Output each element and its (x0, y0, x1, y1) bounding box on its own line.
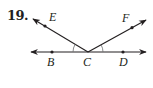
geometry-diagram: E F B C D (0, 0, 153, 88)
point-b (50, 50, 53, 53)
label-d: D (118, 55, 128, 69)
angle-arc-bce (73, 44, 75, 52)
point-f (130, 26, 133, 29)
label-e: E (48, 10, 57, 24)
point-e (43, 24, 46, 27)
point-d (121, 50, 124, 53)
ray-cf (88, 20, 146, 52)
label-b: B (47, 55, 55, 69)
label-f: F (121, 11, 130, 25)
angle-arc-dcf (101, 45, 103, 52)
label-c: C (83, 55, 92, 69)
ray-ce (33, 19, 88, 52)
